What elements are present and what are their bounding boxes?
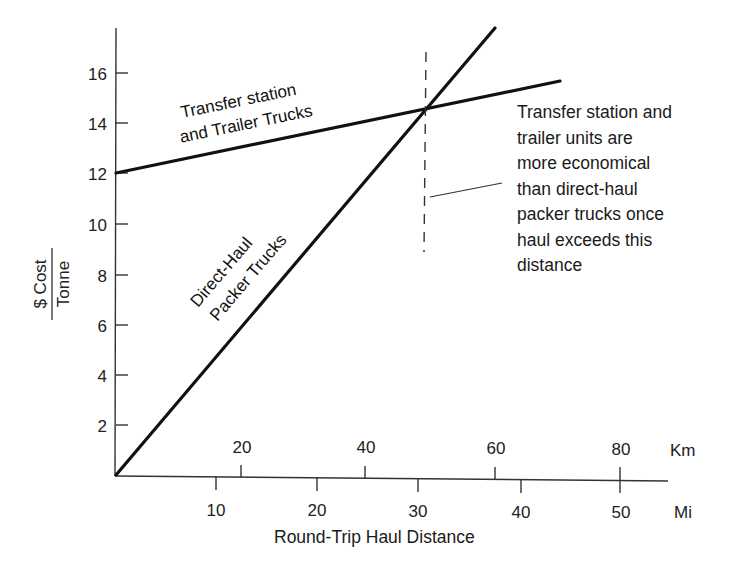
km-unit-label: Km [670,441,696,460]
y-tick-label: 16 [88,65,107,84]
x-axis [115,476,668,481]
y-tick-labels: 2 4 6 8 10 12 14 16 [88,65,107,436]
annotation-line: distance [517,253,732,279]
x-tick-labels-km: 20 40 60 80 [233,438,631,459]
y-axis-title: $ Cost Tonne [31,248,73,320]
y-ticks [116,73,128,425]
y-tick-label: 6 [98,317,107,336]
km-tick-label: 20 [233,438,252,457]
annotation-line: than direct-haul [517,177,732,203]
x-tick-labels-mi: 10 20 30 40 50 [207,501,631,522]
annotation-line: more economical [517,151,732,177]
mi-tick-label: 10 [207,501,226,520]
x-axis-title: Round-Trip Haul Distance [274,527,475,548]
annotation-line: trailer units are [517,126,732,152]
mi-tick-label: 20 [308,501,327,520]
y-title-numerator: $ Cost [31,259,50,308]
y-title-denominator: Tonne [54,261,73,307]
mi-tick-label: 50 [612,503,631,522]
break-even-dashed-line [424,52,426,252]
break-even-annotation: Transfer station and trailer units are m… [517,100,732,279]
y-tick-label: 4 [98,367,107,386]
km-tick-label: 40 [357,438,376,457]
annotation-leader-line [430,183,502,197]
annotation-line: Transfer station and [517,100,732,126]
y-axis [115,28,116,476]
series-line-direct-haul [116,28,495,475]
y-tick-label: 12 [88,165,107,184]
y-tick-label: 8 [98,267,107,286]
annotation-line: haul exceeds this [517,228,732,254]
mi-tick-label: 40 [512,503,531,522]
mi-tick-label: 30 [409,502,428,521]
mi-unit-label: Mi [674,503,692,522]
y-tick-label: 2 [98,417,107,436]
annotation-line: packer trucks once [517,202,732,228]
km-tick-label: 80 [612,440,631,459]
chart-canvas: 2 4 6 8 10 12 14 16 20 40 60 80 Km 10 20… [0,0,737,574]
y-tick-label: 10 [88,216,107,235]
km-tick-label: 60 [487,439,506,458]
y-tick-label: 14 [88,115,107,134]
series-label-direct-haul: Direct-Haul Packer Trucks [187,215,291,326]
